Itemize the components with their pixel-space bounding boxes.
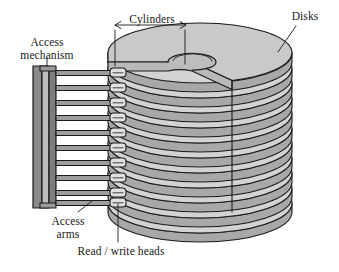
access-arm <box>56 113 126 122</box>
access-arm <box>56 98 126 107</box>
read-write-head <box>110 188 126 197</box>
label-cylinders: Cylinders <box>117 13 187 26</box>
disk-stack <box>108 23 292 242</box>
label-disks: Disks <box>280 10 330 23</box>
label-access-mechanism: Access mechanism <box>4 36 90 62</box>
read-write-head <box>110 158 126 167</box>
access-mechanism <box>33 66 56 208</box>
access-arm <box>56 68 126 77</box>
read-write-head <box>110 68 126 77</box>
access-arm <box>56 198 126 207</box>
read-write-head <box>110 83 126 92</box>
label-read-write-heads: Read / write heads <box>66 245 176 258</box>
access-arm <box>56 173 126 182</box>
read-write-head <box>110 173 126 182</box>
access-arm <box>56 143 126 152</box>
read-write-head <box>110 98 126 107</box>
read-write-head <box>110 128 126 137</box>
access-arm <box>56 188 126 197</box>
access-arm <box>56 128 126 137</box>
hard-disk-diagram: Access mechanism Cylinders Disks Access … <box>0 0 339 272</box>
read-write-head <box>110 113 126 122</box>
access-arm <box>56 83 126 92</box>
read-write-head <box>110 143 126 152</box>
label-access-arms: Access arms <box>37 215 99 241</box>
access-arm <box>56 158 126 167</box>
